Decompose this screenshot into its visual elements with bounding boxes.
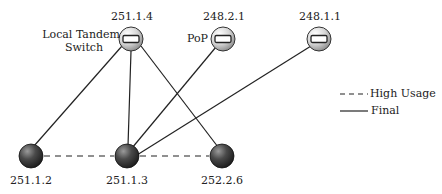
final-links [34, 46, 311, 155]
link-251.1.4-251.1.2 [34, 46, 122, 146]
endpoint-node-251.1.2[interactable] [19, 144, 43, 168]
link-251.1.4-251.1.3 [128, 51, 131, 146]
legend-final-label: Final [371, 105, 399, 117]
node-label-251.1.3: 251.1.3 [106, 175, 148, 187]
node-label-248.2.1: 248.2.1 [203, 11, 245, 23]
node-label-251.1.4: 251.1.4 [111, 11, 153, 23]
legend-high-usage-label: High Usage [370, 88, 436, 100]
switch-node-251.1.4[interactable] [119, 27, 143, 51]
node-label-248.1.1: 248.1.1 [299, 11, 341, 23]
endpoint-node-252.2.6[interactable] [210, 144, 234, 168]
switch-node-248.1.1[interactable] [307, 27, 331, 51]
node-label-251.1.2: 251.1.2 [10, 175, 52, 187]
node-label-252.2.6: 252.2.6 [201, 175, 243, 187]
role-label-pop: PoP [174, 33, 208, 45]
switch-icon [123, 36, 139, 43]
switch-node-248.2.1[interactable] [211, 27, 235, 51]
switch-icon [215, 36, 231, 43]
role-label-local-tandem: Local Tandem [30, 29, 120, 41]
link-248.2.1-251.1.3 [132, 47, 216, 148]
endpoint-node-251.1.3[interactable] [115, 144, 139, 168]
role-label-switch: Switch [62, 42, 106, 54]
link-248.1.1-251.1.3 [137, 46, 311, 155]
link-251.1.4-252.2.6 [141, 46, 218, 147]
switch-icon [311, 36, 327, 43]
